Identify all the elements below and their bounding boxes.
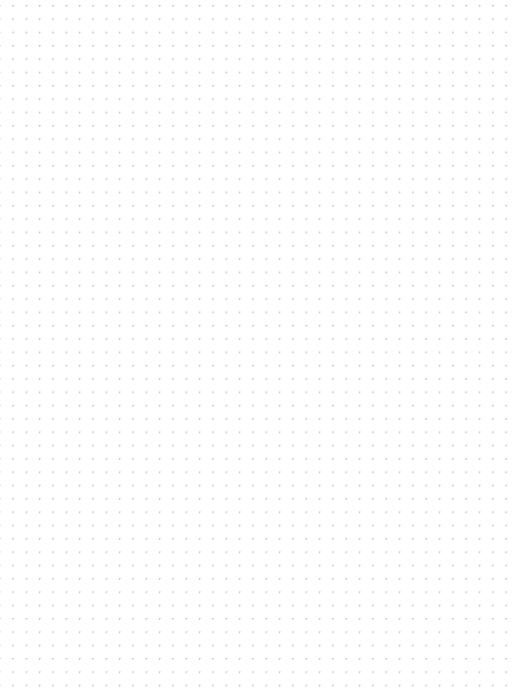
paper-sheet [0,0,517,688]
dot-grid-page: Dot Grid Paper [0,0,517,688]
